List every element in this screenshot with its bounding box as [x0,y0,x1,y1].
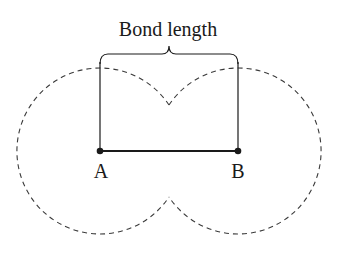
atom-a-dot [97,148,104,155]
bond-length-label: Bond length [119,18,217,41]
atom-b-label: B [231,160,244,182]
atom-b-dot [235,148,242,155]
brace [100,46,238,64]
atom-a-label: A [94,160,109,182]
bond-length-diagram: Bond length A B [0,0,338,254]
